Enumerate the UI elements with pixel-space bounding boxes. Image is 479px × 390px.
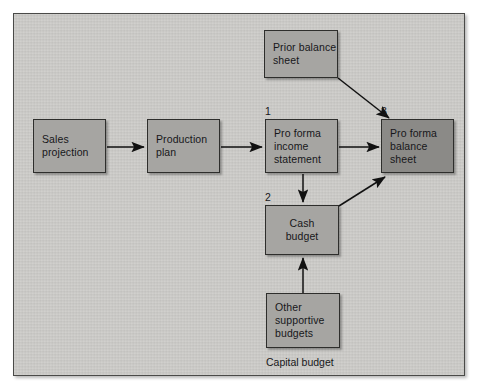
caption-capital-budget: Capital budget bbox=[266, 356, 334, 368]
node-balance-sheet-line-3: sheet bbox=[390, 153, 445, 166]
node-balance-sheet-line-1: Pro forma bbox=[390, 127, 445, 140]
node-prior-balance-sheet-line-1: Prior balance bbox=[273, 41, 329, 54]
node-other-budgets-line-2: supportive bbox=[275, 314, 331, 327]
diagram-frame: Sales projection Production plan 1 Pro f… bbox=[13, 13, 465, 376]
node-production-plan-line-2: plan bbox=[156, 146, 211, 159]
node-cash-budget-line-1: Cash bbox=[290, 217, 315, 230]
node-sales-projection[interactable]: Sales projection bbox=[33, 119, 106, 173]
sequence-label-2: 2 bbox=[265, 192, 271, 203]
edge-layer bbox=[14, 14, 466, 377]
node-other-budgets-line-3: budgets bbox=[275, 327, 331, 340]
node-income-statement-line-1: Pro forma bbox=[274, 127, 329, 140]
diagram-canvas: Sales projection Production plan 1 Pro f… bbox=[14, 14, 464, 375]
node-income-statement-line-2: income bbox=[274, 140, 329, 153]
node-cash-budget[interactable]: Cash budget bbox=[265, 205, 339, 255]
node-prior-balance-sheet[interactable]: Prior balance sheet bbox=[264, 30, 338, 78]
node-production-plan[interactable]: Production plan bbox=[147, 119, 220, 173]
sequence-label-1: 1 bbox=[265, 106, 271, 117]
node-prior-balance-sheet-line-2: sheet bbox=[273, 54, 329, 67]
node-income-statement-line-3: statement bbox=[274, 153, 329, 166]
node-sales-projection-line-2: projection bbox=[42, 146, 97, 159]
node-production-plan-line-1: Production bbox=[156, 133, 211, 146]
node-sales-projection-line-1: Sales bbox=[42, 133, 97, 146]
edge-cash-to-balance bbox=[339, 177, 385, 206]
node-balance-sheet-line-2: balance bbox=[390, 140, 445, 153]
node-other-budgets-line-1: Other bbox=[275, 301, 331, 314]
sequence-label-3: 3 bbox=[381, 106, 387, 117]
node-cash-budget-line-2: budget bbox=[286, 230, 319, 243]
node-other-supportive-budgets[interactable]: Other supportive budgets bbox=[266, 293, 340, 348]
diagram-page: Sales projection Production plan 1 Pro f… bbox=[0, 0, 479, 390]
node-pro-forma-income-statement[interactable]: Pro forma income statement bbox=[265, 119, 338, 173]
node-pro-forma-balance-sheet[interactable]: Pro forma balance sheet bbox=[381, 119, 454, 173]
